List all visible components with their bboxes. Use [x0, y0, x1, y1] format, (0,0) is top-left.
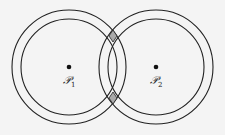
p2-center-dot — [154, 65, 159, 70]
two-ring-diagram: 𝒫 1 𝒫 2 — [0, 0, 225, 135]
p1-subscript: 1 — [71, 81, 75, 89]
p1-center-dot — [67, 65, 72, 70]
p2-subscript: 2 — [158, 81, 162, 89]
